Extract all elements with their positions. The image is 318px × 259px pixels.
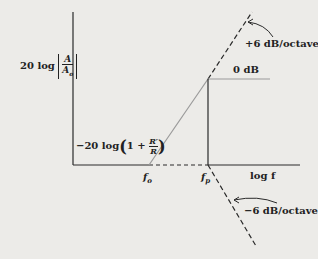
x-axis-label: log f bbox=[250, 170, 275, 181]
marker-fp: fp bbox=[201, 171, 210, 185]
zero-db-text: 0 dB bbox=[233, 64, 259, 75]
slope-down-label: −6 dB/octave bbox=[244, 205, 318, 216]
slope-up-text: +6 dB/octave bbox=[245, 38, 318, 49]
low-level-prefix: −20 log bbox=[76, 140, 119, 151]
slope-down-text: −6 dB/octave bbox=[244, 205, 318, 216]
x-label-text: log f bbox=[250, 170, 275, 181]
y-label-den-sub: o bbox=[69, 70, 73, 77]
y-axis-label: 20 log A Ao bbox=[20, 54, 77, 79]
fo-sub: o bbox=[147, 176, 152, 185]
low-level-one-plus: 1 + bbox=[127, 140, 146, 151]
y-label-prefix: 20 log bbox=[20, 60, 55, 71]
fp-sub: p bbox=[205, 176, 210, 185]
low-level-den: R bbox=[150, 146, 157, 156]
marker-fo: fo bbox=[143, 171, 152, 185]
slope-up-label: +6 dB/octave bbox=[245, 38, 318, 49]
arrow-down-slope bbox=[234, 198, 277, 203]
y-label-num: A bbox=[62, 54, 73, 65]
low-level-label: −20 log(1 + R′ R ) bbox=[76, 137, 165, 156]
zero-db-label: 0 dB bbox=[233, 64, 259, 75]
